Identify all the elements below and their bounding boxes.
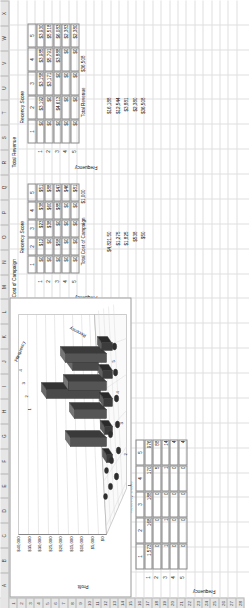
table-cell[interactable]: $0: [61, 255, 70, 273]
table-cell[interactable]: $85: [53, 201, 62, 219]
profit-3d-chart[interactable]: $40,000$35,000$30,000$25,000$20,000$15,0…: [9, 297, 131, 597]
table-cell[interactable]: $2,383: [61, 23, 70, 47]
table-cell[interactable]: $0: [61, 219, 70, 237]
table-cell[interactable]: 0: [169, 517, 178, 543]
table-cell[interactable]: $0: [53, 219, 62, 237]
column-header-g[interactable]: G: [0, 423, 8, 448]
table-cell[interactable]: $38: [44, 219, 53, 237]
column-header-k[interactable]: K: [0, 323, 8, 348]
table-cell[interactable]: 168: [144, 517, 153, 543]
row-header-21[interactable]: 21: [177, 598, 185, 608]
row-header-27[interactable]: 27: [227, 598, 235, 608]
table-cell[interactable]: $46: [61, 183, 70, 201]
row-header-10[interactable]: 10: [85, 598, 93, 608]
column-header-x[interactable]: X: [0, 0, 8, 25]
table-cell[interactable]: 1: [161, 543, 170, 569]
table-cell[interactable]: $0: [44, 255, 53, 273]
column-header-r[interactable]: R: [0, 149, 8, 174]
table-cell[interactable]: $81: [70, 183, 79, 201]
row-header-8[interactable]: 8: [68, 598, 76, 608]
row-header-11[interactable]: 11: [93, 598, 101, 608]
table-cell[interactable]: $3,888: [53, 47, 62, 71]
table-cell[interactable]: $12: [36, 237, 45, 255]
row-header-12[interactable]: 12: [101, 598, 109, 608]
table-cell[interactable]: $0: [44, 237, 53, 255]
table-cell[interactable]: 88: [152, 439, 161, 465]
row-header-column[interactable]: 1234567891011121314151617181920212223242…: [9, 597, 244, 608]
table-cell[interactable]: 1,573: [144, 543, 153, 569]
row-header-1[interactable]: 1: [9, 598, 17, 608]
row-header-2[interactable]: 2: [17, 598, 25, 608]
table-cell[interactable]: $0: [36, 119, 45, 143]
table-cell[interactable]: 1: [161, 465, 170, 491]
table-cell[interactable]: $38: [36, 201, 45, 219]
column-header-i[interactable]: I: [0, 373, 8, 398]
table-cell[interactable]: $0: [70, 255, 79, 273]
table-cell[interactable]: 4: [178, 439, 187, 465]
table-cell[interactable]: 0: [152, 517, 161, 543]
column-header-b[interactable]: B: [0, 547, 8, 572]
column-header-j[interactable]: J: [0, 348, 8, 373]
column-header-h[interactable]: H: [0, 398, 8, 423]
table-cell[interactable]: $47: [53, 183, 62, 201]
table-cell[interactable]: $4,613: [53, 95, 62, 119]
table-cell[interactable]: 0: [169, 491, 178, 517]
table-cell[interactable]: 0: [178, 543, 187, 569]
table-cell[interactable]: $6,083: [53, 23, 62, 47]
row-header-14[interactable]: 14: [118, 598, 126, 608]
table-cell[interactable]: $0: [70, 201, 79, 219]
table-cell[interactable]: $0: [36, 255, 45, 273]
row-header-7[interactable]: 7: [59, 598, 67, 608]
table-cell[interactable]: 4: [169, 439, 178, 465]
table-cell[interactable]: $0: [61, 201, 70, 219]
row-header-15[interactable]: 15: [126, 598, 134, 608]
table-cell[interactable]: 5: [152, 465, 161, 491]
row-header-25[interactable]: 25: [210, 598, 218, 608]
table-cell[interactable]: $0: [61, 95, 70, 119]
table-cell[interactable]: $0: [70, 47, 79, 71]
table-cell[interactable]: 1: [161, 517, 170, 543]
table-cell[interactable]: $88: [44, 183, 53, 201]
table-cell[interactable]: $0: [44, 95, 53, 119]
row-header-22[interactable]: 22: [185, 598, 193, 608]
table-cell[interactable]: $0: [70, 219, 79, 237]
table-cell[interactable]: $3,930: [36, 23, 45, 47]
table-cell[interactable]: 0: [152, 491, 161, 517]
table-cell[interactable]: 0: [169, 465, 178, 491]
column-header-p[interactable]: P: [0, 199, 8, 224]
table-cell[interactable]: $3,171: [44, 71, 53, 95]
table-cell[interactable]: $0: [70, 119, 79, 143]
column-header-l[interactable]: L: [0, 299, 8, 324]
table-cell[interactable]: $60: [44, 201, 53, 219]
table-cell[interactable]: 0: [178, 491, 187, 517]
row-header-20[interactable]: 20: [168, 598, 176, 608]
column-header-v[interactable]: V: [0, 50, 8, 75]
row-header-3[interactable]: 3: [26, 598, 34, 608]
table-cell[interactable]: $5,791: [44, 47, 53, 71]
column-header-c[interactable]: C: [0, 522, 8, 547]
column-header-d[interactable]: D: [0, 498, 8, 523]
row-header-19[interactable]: 19: [160, 598, 168, 608]
column-header-s[interactable]: S: [0, 124, 8, 149]
table-cell[interactable]: $0: [70, 95, 79, 119]
row-header-23[interactable]: 23: [194, 598, 202, 608]
row-header-24[interactable]: 24: [202, 598, 210, 608]
row-header-26[interactable]: 26: [219, 598, 227, 608]
table-cell[interactable]: $2,380: [70, 23, 79, 47]
table-cell[interactable]: $0: [53, 255, 62, 273]
column-header-a[interactable]: A: [0, 572, 8, 597]
column-header-u[interactable]: U: [0, 75, 8, 100]
table-cell[interactable]: $0: [53, 71, 62, 95]
row-header-17[interactable]: 17: [143, 598, 151, 608]
column-header-n[interactable]: N: [0, 249, 8, 274]
row-header-13[interactable]: 13: [110, 598, 118, 608]
table-cell[interactable]: $0: [53, 119, 62, 143]
table-cell[interactable]: $0: [70, 237, 79, 255]
row-header-18[interactable]: 18: [152, 598, 160, 608]
row-header-6[interactable]: 6: [51, 598, 59, 608]
table-cell[interactable]: 170: [144, 465, 153, 491]
table-cell[interactable]: 0: [169, 543, 178, 569]
column-header-q[interactable]: Q: [0, 174, 8, 199]
column-header-f[interactable]: F: [0, 448, 8, 473]
column-header-m[interactable]: M: [0, 274, 8, 299]
